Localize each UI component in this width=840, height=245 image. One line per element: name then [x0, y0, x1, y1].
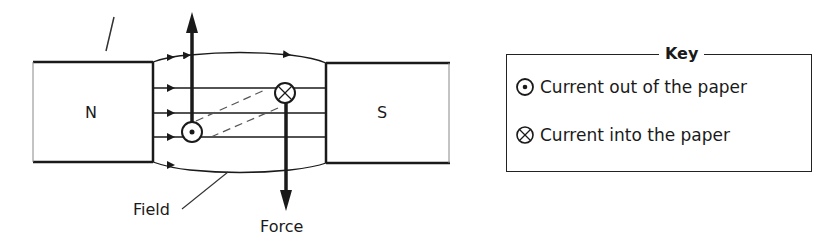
field-leader-line	[182, 172, 228, 209]
field-arrowheads	[167, 54, 175, 169]
stray-mark	[106, 17, 114, 51]
north-pole-label: N	[85, 103, 97, 122]
key-item-label: Current out of the paper	[540, 77, 747, 97]
south-magnet	[326, 63, 450, 163]
force-label: Force	[260, 217, 303, 236]
key-item-out: Current out of the paper	[515, 77, 747, 97]
key-legend: Key Current out of the paper Current int…	[506, 54, 812, 172]
key-item-in: Current into the paper	[515, 125, 730, 145]
force-up-arrow	[186, 12, 198, 124]
force-down-arrow	[280, 103, 292, 211]
field-lines	[153, 53, 326, 173]
dot-circle-icon	[515, 77, 535, 97]
cross-circle-icon	[275, 83, 295, 103]
cross-circle-icon	[515, 125, 535, 145]
key-item-label: Current into the paper	[540, 125, 730, 145]
dot-circle-icon	[182, 122, 202, 142]
field-label: Field	[133, 200, 170, 219]
south-pole-label: S	[377, 103, 387, 122]
key-title: Key	[659, 44, 704, 63]
